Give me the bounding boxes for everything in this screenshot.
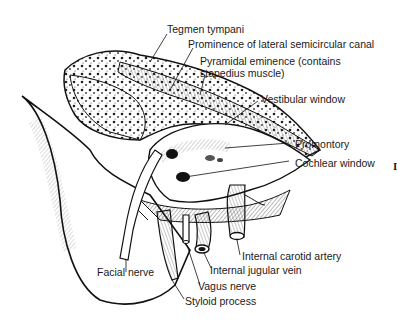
label-pyramidal-eminence-line1: Pyramidal eminence (contains (200, 55, 341, 67)
label-cochlear-window: Cochlear window (295, 157, 375, 169)
vestibular-window (166, 149, 178, 159)
label-internal-carotid-artery: Internal carotid artery (242, 250, 341, 262)
label-lateral-semicircular-canal: Prominence of lateral semicircular canal (188, 38, 374, 50)
margin-mark: I (393, 160, 397, 172)
internal-jugular-vein (195, 212, 211, 250)
label-vagus-nerve: Vagus nerve (198, 280, 256, 292)
label-tegmen-tympani: Tegmen tympani (167, 23, 244, 35)
label-styloid-process: Styloid process (185, 295, 256, 307)
vagus-nerve (183, 215, 189, 242)
label-vestibular-window: Vestibular window (261, 93, 345, 105)
label-pyramidal-eminence-line2: stapedius muscle) (200, 67, 285, 79)
internal-carotid-artery (227, 185, 245, 237)
label-facial-nerve: Facial nerve (97, 266, 154, 278)
label-internal-jugular-vein: Internal jugular vein (210, 264, 302, 276)
cochlear-window (176, 172, 190, 182)
label-promontory: Promontory (295, 138, 349, 150)
diagram-canvas: Tegmen tympani Prominence of lateral sem… (0, 0, 397, 326)
